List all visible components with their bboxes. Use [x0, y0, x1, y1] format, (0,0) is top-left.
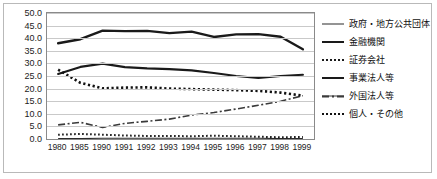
- plot-area: [46, 12, 315, 140]
- x-axis-tick-label: 1998: [270, 142, 289, 153]
- y-axis-tick-label: 45.0: [24, 21, 42, 30]
- legend-item[interactable]: 個人・その他: [322, 106, 425, 121]
- x-axis-tick-label: 1995: [203, 142, 222, 153]
- y-axis-tick-label: 25.0: [24, 72, 42, 81]
- legend-swatch-icon: [322, 109, 344, 119]
- legend-item[interactable]: 政府・地方公共団体: [322, 16, 425, 31]
- legend-swatch-icon: [322, 19, 344, 29]
- legend-item[interactable]: 事業法人等: [322, 70, 425, 85]
- x-axis-tick-label: 1992: [137, 142, 156, 153]
- y-axis-tick-label: 40.0: [24, 34, 42, 43]
- chart-frame: 0.05.010.015.020.025.030.035.040.045.050…: [3, 3, 432, 173]
- legend-swatch-icon: [322, 91, 344, 101]
- x-axis-tick-label: 1999: [292, 142, 311, 153]
- legend-swatch-icon: [322, 73, 344, 83]
- legend-item[interactable]: 外国法人等: [322, 88, 425, 103]
- x-axis-tick-label: 1993: [159, 142, 178, 153]
- legend-item[interactable]: 金融機関: [322, 34, 425, 49]
- x-axis-tick-label: 1997: [248, 142, 267, 153]
- y-axis-tick-label: 5.0: [29, 122, 42, 131]
- series-line: [58, 70, 303, 96]
- gridline: [47, 51, 314, 52]
- gridline: [47, 126, 314, 127]
- series-line: [58, 31, 303, 50]
- gridline: [47, 63, 314, 64]
- legend-item-label: 金融機関: [349, 37, 385, 47]
- x-axis-tick-label: 1994: [181, 142, 200, 153]
- x-axis-tick-label: 1991: [114, 142, 133, 153]
- x-axis-tick-label: 1990: [92, 142, 111, 153]
- legend-item-label: 外国法人等: [349, 91, 394, 101]
- chart-plot-wrapper: 0.05.010.015.020.025.030.035.040.045.050…: [12, 12, 425, 166]
- gridline: [47, 26, 314, 27]
- gridline: [47, 13, 314, 14]
- x-axis-tick-label: 1980: [48, 142, 67, 153]
- legend-item[interactable]: 証券会社: [322, 52, 425, 67]
- gridline: [47, 101, 314, 102]
- gridline: [47, 38, 314, 39]
- x-axis-labels: 1980198519901991199219931994199519961997…: [46, 142, 315, 156]
- y-axis-tick-label: 35.0: [24, 46, 42, 55]
- gridline: [47, 139, 314, 140]
- legend-item-label: 事業法人等: [349, 73, 394, 83]
- legend-item-label: 政府・地方公共団体: [349, 19, 430, 29]
- gridline: [47, 76, 314, 77]
- y-axis-tick-label: 10.0: [24, 109, 42, 118]
- y-axis-tick-label: 30.0: [24, 59, 42, 68]
- y-axis-tick-label: 50.0: [24, 9, 42, 18]
- x-axis-tick-label: 1985: [70, 142, 89, 153]
- legend-item-label: 個人・その他: [349, 109, 403, 119]
- legend-swatch-icon: [322, 37, 344, 47]
- series-line: [58, 134, 303, 137]
- gridline: [47, 114, 314, 115]
- gridline: [47, 89, 314, 90]
- x-axis-tick-label: 1996: [226, 142, 245, 153]
- y-axis-tick-label: 15.0: [24, 97, 42, 106]
- y-axis-labels: 0.05.010.015.020.025.030.035.040.045.050…: [12, 12, 44, 140]
- y-axis-tick-label: 20.0: [24, 84, 42, 93]
- legend-item-label: 証券会社: [349, 55, 385, 65]
- y-axis-tick-label: 0.0: [29, 135, 42, 144]
- chart-legend: 政府・地方公共団体金融機関証券会社事業法人等外国法人等個人・その他: [322, 16, 425, 140]
- legend-swatch-icon: [322, 55, 344, 65]
